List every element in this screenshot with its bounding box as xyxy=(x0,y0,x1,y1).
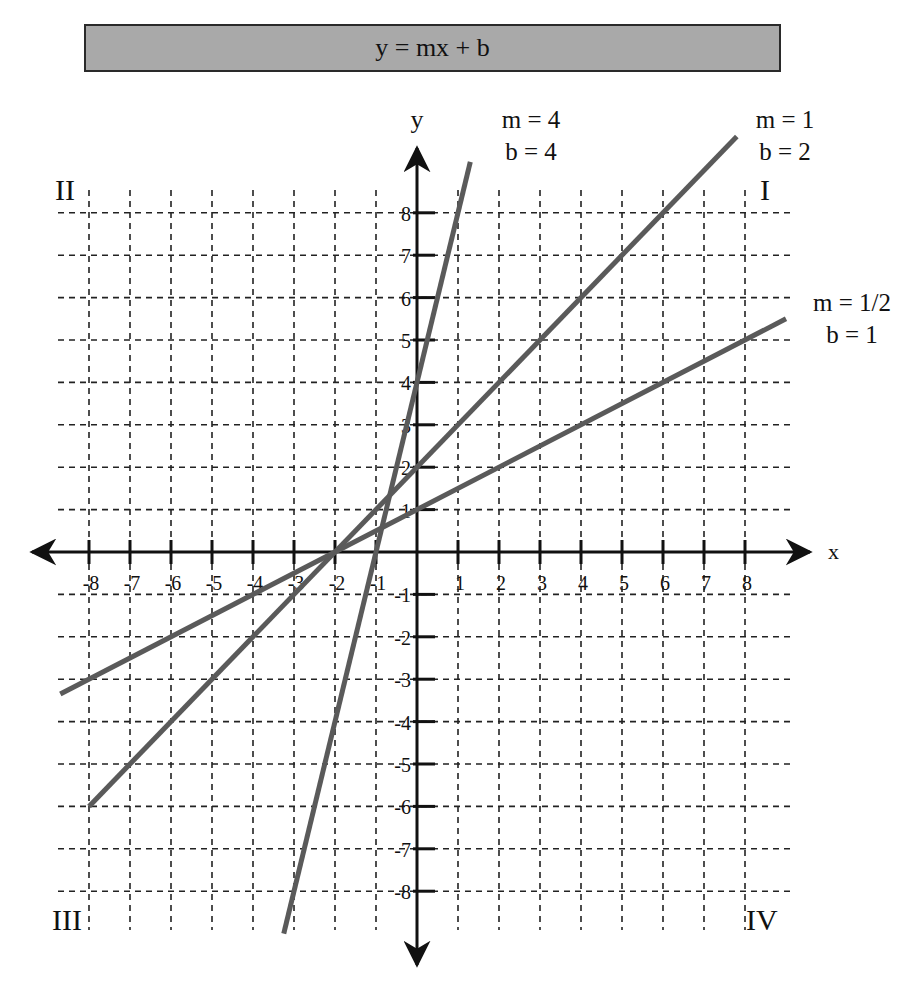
x-tick-label: -7 xyxy=(124,572,141,594)
tick-labels: -8-7-6-5-4-3-2-11234567887654321-1-2-3-4… xyxy=(83,105,839,903)
quadrant-iv-label: IV xyxy=(746,903,778,936)
quadrant-i-label: I xyxy=(760,173,770,206)
series-line-0 xyxy=(284,162,471,934)
x-tick-label: 5 xyxy=(619,572,629,594)
x-tick-label: -2 xyxy=(329,572,346,594)
y-tick-label: 5 xyxy=(401,330,411,352)
y-axis-label: y xyxy=(411,105,424,134)
x-axis-label: x xyxy=(828,539,839,564)
y-tick-label: -3 xyxy=(394,669,411,691)
line-label-slope: m = 1 xyxy=(756,106,815,133)
y-tick-label: -6 xyxy=(394,796,411,818)
x-tick-label: 6 xyxy=(660,572,670,594)
x-tick-label: -6 xyxy=(165,572,182,594)
quadrant-iii-label: III xyxy=(52,903,82,936)
x-tick-label: 2 xyxy=(496,572,506,594)
y-tick-label: -1 xyxy=(394,584,411,606)
x-tick-label: -8 xyxy=(83,572,100,594)
y-tick-label: -4 xyxy=(394,712,411,734)
line-label-slope: m = 4 xyxy=(502,106,561,133)
line-label-intercept: b = 2 xyxy=(759,138,811,165)
x-tick-label: 7 xyxy=(701,572,711,594)
annotations: IIIIIIIVm = 4b = 4m = 1b = 2m = 1/2b = 1 xyxy=(52,106,891,936)
x-tick-label: 4 xyxy=(578,572,588,594)
line-label-intercept: b = 1 xyxy=(826,321,878,348)
axes xyxy=(32,148,810,965)
y-tick-label: -5 xyxy=(394,754,411,776)
y-tick-label: 6 xyxy=(401,288,411,310)
y-tick-label: 7 xyxy=(401,245,411,267)
y-tick-label: 4 xyxy=(401,372,411,394)
x-tick-label: 1 xyxy=(455,572,465,594)
x-tick-label: 8 xyxy=(742,572,752,594)
grid xyxy=(58,190,790,930)
quadrant-ii-label: II xyxy=(55,173,75,206)
x-tick-label: -5 xyxy=(206,572,223,594)
y-tick-label: -2 xyxy=(394,627,411,649)
series-line-1 xyxy=(89,136,737,806)
y-tick-label: -8 xyxy=(394,881,411,903)
line-label-intercept: b = 4 xyxy=(505,138,557,165)
y-tick-label: -7 xyxy=(394,839,411,861)
x-tick-label: 3 xyxy=(537,572,547,594)
line-label-slope: m = 1/2 xyxy=(813,289,891,316)
y-tick-label: 8 xyxy=(401,203,411,225)
plot-area: -8-7-6-5-4-3-2-11234567887654321-1-2-3-4… xyxy=(0,0,914,981)
